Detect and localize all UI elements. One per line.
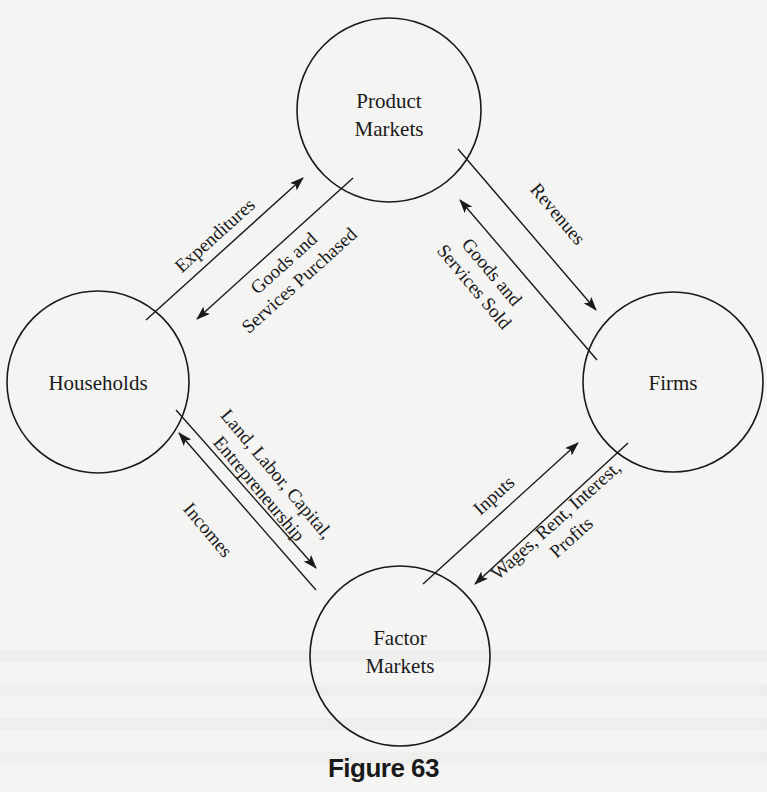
figure-page: Product Markets Households Firms Factor … — [0, 0, 767, 792]
revenues-label: Revenues — [526, 179, 590, 249]
circular-flow-diagram: Product Markets Households Firms Factor … — [0, 0, 767, 792]
product-markets-label-2: Markets — [355, 117, 424, 141]
factor-markets-label-2: Markets — [366, 654, 435, 678]
incomes-label: Incomes — [179, 498, 236, 561]
goods-purchased-label: Goods and Services Purchased — [222, 206, 361, 338]
figure-caption: Figure 63 — [0, 753, 767, 784]
firms-label: Firms — [648, 371, 697, 395]
goods-sold-label: Goods and Services Sold — [433, 225, 534, 333]
expenditures-label: Expenditures — [170, 194, 259, 277]
factor-markets-label-1: Factor — [373, 626, 427, 650]
node-households: Households — [7, 291, 189, 473]
node-firms: Firms — [583, 292, 763, 472]
node-product-markets: Product Markets — [297, 18, 481, 202]
node-factor-markets: Factor Markets — [310, 566, 490, 746]
households-label: Households — [48, 371, 147, 395]
inputs-label: Inputs — [469, 471, 518, 518]
product-markets-label-1: Product — [356, 89, 421, 113]
